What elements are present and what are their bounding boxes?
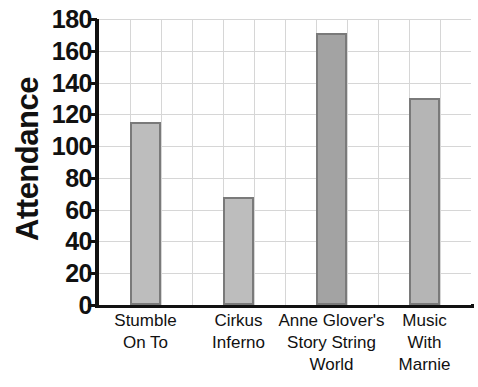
x-axis-tick-label-line: With [371, 332, 478, 354]
x-axis-tick-label-line: Story String [278, 332, 385, 354]
y-axis-tick-label: 40 [34, 229, 92, 254]
y-axis-tick-label: 180 [34, 7, 92, 32]
y-axis-tick-label: 100 [34, 134, 92, 159]
x-axis-tick-label-line: Marnie [371, 354, 478, 376]
vertical-gridline [347, 19, 348, 305]
y-axis-tick-labels: 020406080100120140160180 [34, 0, 92, 387]
bar [316, 33, 347, 305]
x-axis-tick-label-line: On To [92, 332, 199, 354]
bar [409, 98, 440, 305]
x-axis-tick-label: CirkusInferno [185, 310, 292, 354]
y-axis-tick-label: 80 [34, 166, 92, 191]
y-axis-tick-label: 0 [34, 293, 92, 318]
bar [130, 122, 161, 305]
x-axis-tick-label-line: Inferno [185, 332, 292, 354]
vertical-gridline [254, 19, 255, 305]
y-axis-tick-label: 20 [34, 261, 92, 286]
y-axis-tick-label: 60 [34, 198, 92, 223]
vertical-gridline [192, 19, 193, 305]
x-axis-tick-label-line: Music [371, 310, 478, 332]
y-axis-tick-label: 160 [34, 39, 92, 64]
x-axis-tick-label: MusicWithMarnie [371, 310, 478, 376]
x-axis-tick-label: StumbleOn To [92, 310, 199, 354]
vertical-gridline [161, 19, 162, 305]
vertical-gridline [378, 19, 379, 305]
bar-chart: Attendance 020406080100120140160180 Stum… [0, 0, 478, 387]
x-axis-tick-label-line: Anne Glover's [278, 310, 385, 332]
x-axis-tick-label-line: Cirkus [185, 310, 292, 332]
x-axis-tick-label-line: Stumble [92, 310, 199, 332]
vertical-gridline [440, 19, 441, 305]
plot-area [99, 19, 471, 305]
vertical-gridline [285, 19, 286, 305]
x-axis-tick-label-line: World [278, 354, 385, 376]
y-axis-tick-label: 120 [34, 102, 92, 127]
x-axis-tick-label: Anne Glover'sStory StringWorld [278, 310, 385, 376]
x-axis-tick-labels: StumbleOn ToCirkusInfernoAnne Glover'sSt… [99, 310, 478, 387]
y-axis-tick-label: 140 [34, 71, 92, 96]
bar [223, 197, 254, 305]
